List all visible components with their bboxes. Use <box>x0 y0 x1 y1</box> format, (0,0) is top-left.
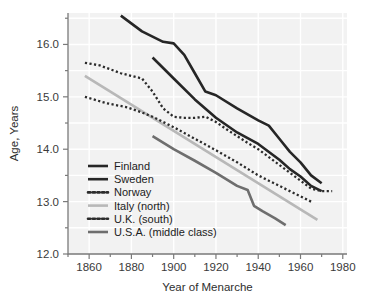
chart-container: 186018801900192019401960198012.013.014.0… <box>0 0 370 296</box>
y-tick-label: 14.0 <box>37 143 59 155</box>
y-axis-title: Age, Years <box>8 105 20 161</box>
y-tick-label: 15.0 <box>37 91 59 103</box>
y-tick-label: 13.0 <box>37 196 59 208</box>
legend-label: U.K. (south) <box>114 213 173 225</box>
x-tick-label: 1900 <box>161 261 187 273</box>
x-tick-label: 1980 <box>330 261 356 273</box>
menarche-age-line-chart: 186018801900192019401960198012.013.014.0… <box>0 0 370 296</box>
y-tick-label: 16.0 <box>37 38 59 50</box>
legend-label: Italy (north) <box>114 200 170 212</box>
x-tick-label: 1880 <box>119 261 145 273</box>
x-tick-label: 1960 <box>288 261 314 273</box>
legend-label: U.S.A. (middle class) <box>114 226 217 238</box>
y-tick-label: 12.0 <box>37 248 59 260</box>
plot-background <box>68 13 347 254</box>
legend-label: Norway <box>114 186 152 198</box>
x-tick-label: 1940 <box>245 261 271 273</box>
x-tick-label: 1860 <box>76 261 102 273</box>
legend-label: Finland <box>114 160 150 172</box>
x-axis-title: Year of Menarche <box>162 281 252 293</box>
legend-label: Sweden <box>114 173 154 185</box>
x-tick-label: 1920 <box>203 261 229 273</box>
